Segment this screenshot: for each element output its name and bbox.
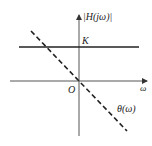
frequency-response-diagram: |H(jω)| ω O K θ(ω) [0,0,152,146]
phase-label: θ(ω) [117,103,136,115]
x-axis-label: ω [140,83,146,93]
k-label: K [81,35,90,46]
origin-label: O [68,84,75,95]
y-axis-label: |H(jω)| [83,11,112,23]
